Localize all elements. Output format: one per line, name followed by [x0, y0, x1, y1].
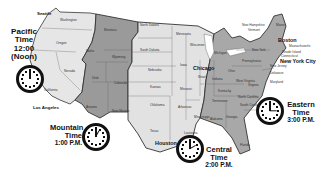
state-label-south-dakota: South Dakota [140, 49, 159, 52]
clock-tick [276, 106, 278, 108]
clock-tick [197, 148, 199, 150]
state-label-nevada: Nevada [64, 70, 75, 73]
clock-tick [103, 136, 105, 138]
clock-tick [102, 132, 104, 134]
clock-tick [185, 141, 187, 143]
clock-tick [95, 128, 97, 130]
mountain-clock-icon [82, 123, 110, 151]
clock-tick [33, 71, 35, 73]
clock-tick [276, 114, 278, 116]
state-label-wisconsin: Wisconsin [190, 44, 205, 47]
city-new-york: New York City [280, 59, 316, 64]
state-label-montana: Montana [104, 29, 116, 32]
clock-tick [22, 74, 24, 76]
clock-tick [196, 144, 198, 146]
clock-tick [102, 140, 104, 142]
clock-tick [88, 132, 90, 134]
state-label-michigan: Michigan [214, 52, 227, 55]
clock-tick [182, 144, 184, 146]
clock-tick [91, 143, 93, 145]
state-label-georgia: Georgia [226, 116, 237, 119]
state-label-washington: Washington [60, 19, 77, 22]
state-label-wyoming: Wyoming [112, 56, 125, 59]
state-label-arizona: Arizona [86, 106, 97, 109]
clock-tick [181, 148, 183, 150]
state-label-oklahoma: Oklahoma [150, 104, 165, 107]
city-seattle: Seattle [37, 12, 51, 16]
clock-tick [273, 117, 275, 119]
clock-tick [25, 85, 27, 87]
clock-tick [29, 86, 31, 88]
state-label-illinois: Illinois [198, 76, 207, 79]
clock-tick [99, 143, 101, 145]
state-label-missouri: Missouri [180, 88, 192, 91]
city-los-angeles: Los Angeles [33, 106, 59, 110]
clock-tick [36, 74, 38, 76]
clock-tick [277, 110, 279, 112]
clock-tick [25, 71, 27, 73]
city-houston: Houston [155, 141, 177, 146]
clock-tick [99, 129, 101, 131]
pacific-time-label: Pacific Time 12:00 (Noon) [10, 28, 38, 62]
state-label-massachusetts: Massachusetts [289, 45, 310, 48]
state-label-iowa: Iowa [180, 64, 187, 67]
clock-tick [37, 78, 39, 80]
central-time-label: Central Time 2:00 P.M. [204, 146, 234, 169]
clock-tick [22, 82, 24, 84]
city-boston: Boston [278, 38, 297, 43]
clock-tick [193, 155, 195, 157]
state-label-north-dakota: North Dakota [140, 24, 159, 27]
state-label-north-carolina: North Carolina [238, 96, 259, 99]
state-label-texas: Texas [150, 130, 158, 133]
clock-tick [273, 103, 275, 105]
state-label-kansas: Kansas [150, 86, 161, 89]
state-label-idaho: Idaho [86, 50, 94, 53]
state-label-new-jersey: New Jersey [270, 65, 287, 68]
state-label-nebraska: Nebraska [148, 69, 162, 72]
state-label-tennessee: Tennessee [212, 100, 227, 103]
clock-tick [269, 102, 271, 104]
state-label-new-mexico: New Mexico [112, 110, 129, 113]
state-label-pennsylvania: Pennsylvania [242, 60, 261, 63]
clock-tick [36, 82, 38, 84]
state-label-virginia: Virginia [248, 84, 259, 87]
state-label-arkansas: Arkansas [178, 106, 191, 109]
eastern-clock-icon [256, 97, 284, 125]
state-label-ohio: Ohio [228, 70, 235, 73]
clock-tick [88, 140, 90, 142]
mountain-time-label: Mountain Time 1:00 P.M. [50, 124, 82, 147]
state-label-mississippi: Mississippi [194, 116, 209, 119]
clock-tick [33, 85, 35, 87]
state-label-vermont: Vermont [248, 29, 260, 32]
state-label-indiana: Indiana [212, 78, 222, 81]
state-label-utah: Utah [92, 77, 99, 80]
zone-time-note: (Noon) [10, 53, 38, 61]
state-label-oregon: Oregon [56, 42, 67, 45]
clock-tick [87, 136, 89, 138]
state-label-florida: Florida [240, 144, 250, 147]
state-label-kentucky: Kentucky [218, 90, 231, 93]
clock-tick [196, 152, 198, 154]
state-label-maryland: Maryland [270, 81, 283, 84]
zone-time: 1:00 P.M. [50, 140, 82, 147]
clock-tick [29, 70, 31, 72]
clock-tick [91, 129, 93, 131]
state-label-alabama: Alabama [210, 118, 223, 121]
state-label-california: California [44, 89, 57, 92]
state-label-delaware: Delaware [270, 72, 283, 75]
pacific-clock-icon [16, 65, 44, 93]
clock-tick [269, 118, 271, 120]
state-label-new-hampshire: New Hampshire [242, 24, 265, 27]
zone-time: 2:00 P.M. [204, 162, 234, 169]
central-zone-region [128, 22, 214, 152]
state-label-colorado: Colorado [114, 82, 127, 85]
clock-tick [262, 106, 264, 108]
state-label-minnesota: Minnesota [176, 33, 191, 36]
clock-tick [265, 103, 267, 105]
clock-tick [21, 78, 23, 80]
clock-tick [262, 114, 264, 116]
city-chicago: Chicago [193, 66, 214, 71]
state-label-maine: Maine [276, 24, 285, 27]
clock-tick [261, 110, 263, 112]
clock-tick [189, 156, 191, 158]
